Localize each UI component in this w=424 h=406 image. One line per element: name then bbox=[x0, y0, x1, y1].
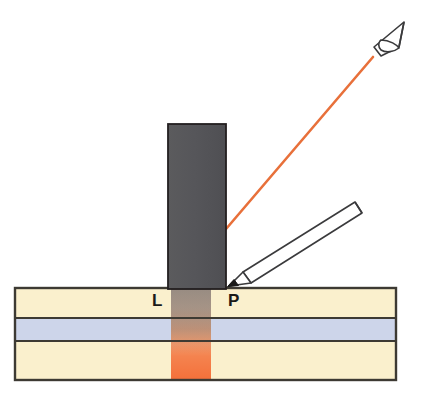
occlusion-shadow bbox=[171, 288, 211, 354]
label-point-p: P bbox=[228, 291, 239, 310]
layered-substrate bbox=[15, 288, 396, 380]
light-ray-line bbox=[226, 57, 373, 229]
diagram-canvas: L P bbox=[0, 0, 424, 406]
pencil-icon bbox=[228, 202, 363, 287]
occluding-block bbox=[168, 124, 226, 289]
eye-icon bbox=[374, 22, 404, 56]
occlusion-diagram: L P bbox=[0, 0, 424, 406]
label-point-l: L bbox=[152, 291, 162, 310]
